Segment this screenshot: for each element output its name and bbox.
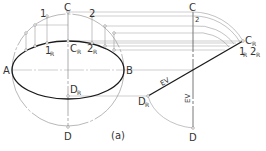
point-markers [25, 11, 116, 129]
label-dr: D R [70, 84, 81, 96]
label-d: D [64, 131, 72, 142]
label-ev-inclined: EV [159, 76, 171, 88]
svg-text:C: C [70, 43, 77, 54]
label-2: 2 [89, 8, 95, 19]
label-2-edge: 2 [195, 16, 199, 24]
svg-text:R: R [93, 48, 97, 55]
svg-text:R: R [256, 51, 260, 58]
label-ev-vertical: EV [184, 94, 192, 103]
label-a: A [3, 65, 10, 76]
figure-caption: (a) [111, 130, 125, 141]
label-b: B [126, 65, 133, 76]
edge-view: C 2 D C R 1 R 2 R D R EV EV [138, 2, 260, 143]
label-2r-edge: 2 R [250, 46, 260, 58]
svg-text:C: C [245, 35, 252, 46]
label-1: 1 [40, 8, 46, 19]
revolution-diagram: A B C D 1 2 1 R C R 2 R D R [0, 0, 266, 151]
label-cr: C R [70, 43, 81, 55]
label-c: C [64, 2, 71, 13]
label-1r-edge: 1 R [239, 46, 247, 58]
label-dr-edge: D R [138, 96, 149, 108]
svg-text:R: R [77, 48, 81, 55]
svg-text:R: R [77, 89, 81, 96]
label-c-edge: C [189, 2, 196, 13]
svg-text:R: R [243, 51, 247, 58]
svg-text:R: R [145, 101, 149, 108]
svg-text:R: R [50, 50, 54, 57]
front-view: A B C D 1 2 1 R C R 2 R D R [3, 2, 243, 142]
label-1r: 1 R [45, 45, 54, 57]
label-d-edge: D [189, 132, 197, 143]
